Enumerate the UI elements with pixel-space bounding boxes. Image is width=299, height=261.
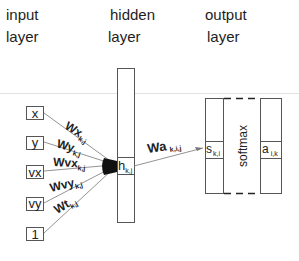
hidden-layer-column xyxy=(118,69,135,223)
hidden-to-output-connection xyxy=(134,148,203,166)
softmax-label: softmax xyxy=(236,125,250,167)
weight-label: Wvyk,j xyxy=(48,173,83,196)
arrowhead-fan-icon xyxy=(102,158,117,175)
input-label: vy xyxy=(29,196,43,211)
network-diagram: x y vx vy 1 Wxk,j Wyk,j Wvxk,j Wvyk,j Wt… xyxy=(0,0,299,261)
arrow-icon xyxy=(195,147,203,151)
wa-weight-label: Wak,i,j xyxy=(146,136,182,157)
input-label: x xyxy=(32,106,39,121)
input-label: y xyxy=(32,135,39,150)
input-label: vx xyxy=(29,165,43,180)
input-label: 1 xyxy=(31,227,38,242)
